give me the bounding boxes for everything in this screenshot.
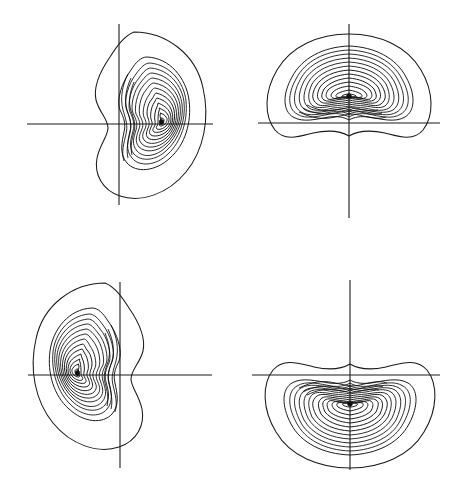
panel-axes-top-right xyxy=(258,24,440,218)
panel-axes-bottom-right xyxy=(252,280,440,470)
panel-contours-top-left xyxy=(95,32,205,198)
contour-level-2 xyxy=(119,57,190,170)
contour-dense-band xyxy=(126,63,187,164)
panel-axes-bottom-left xyxy=(28,282,212,468)
panel-axes-top-left xyxy=(27,24,213,205)
contour-panel-top-left xyxy=(0,0,235,248)
panel-contours-bottom-left xyxy=(33,283,143,449)
contour-panel-bottom-right xyxy=(235,248,470,496)
contour-panel-bottom-left xyxy=(0,248,235,496)
contour-panel-top-right xyxy=(235,0,470,248)
contour-level-2 xyxy=(49,308,120,421)
contour-dense-band xyxy=(53,314,114,415)
contour-figure xyxy=(0,0,470,496)
